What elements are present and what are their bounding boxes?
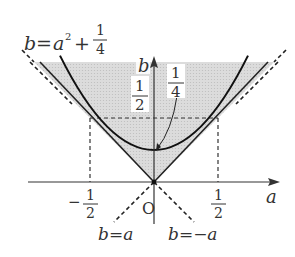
eq-frac-num: 1 (96, 22, 105, 38)
quarter-annotation-den: 4 (171, 83, 181, 101)
neg-half-den: 2 (86, 205, 95, 221)
quarter-annotation-num: 1 (171, 64, 181, 82)
eq-exponent: 2 (65, 31, 71, 42)
eq-a: a (53, 32, 64, 54)
line-b-eq-neg-a-label: b=−a (168, 224, 218, 244)
origin-point (152, 180, 157, 185)
pos-half-den: 2 (214, 205, 223, 221)
eq-plus: + (74, 32, 90, 54)
dashed-line-b-eq-neg-a-lower (154, 182, 194, 222)
eq-b: b (24, 32, 36, 54)
half-annotation-den: 2 (135, 96, 145, 114)
neg-half-num: 1 (86, 187, 95, 203)
diagram-canvas: b = a 2 + 1 4 b 1 2 1 4 a O − 1 2 1 2 b=… (0, 0, 295, 257)
eq-frac-den: 4 (96, 41, 105, 57)
b-axis-label: b (138, 55, 150, 76)
pos-half-num: 1 (214, 187, 223, 203)
dashed-line-b-eq-a-upper (274, 50, 286, 62)
neg-half-sign: − (68, 193, 81, 211)
a-axis-label: a (266, 186, 277, 207)
half-annotation-num: 1 (135, 77, 145, 95)
eq-equals: = (36, 32, 52, 54)
line-b-eq-a-label: b=a (98, 224, 133, 244)
origin-label: O (142, 199, 155, 218)
